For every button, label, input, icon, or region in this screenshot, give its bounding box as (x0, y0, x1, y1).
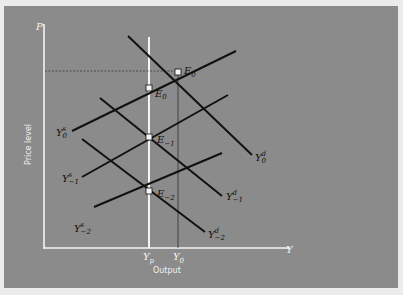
equilibrium-label-e-minus2: E−2 (157, 189, 175, 202)
supply-curve-minus1 (82, 95, 228, 177)
equilibrium-point-e-minus1 (146, 134, 152, 140)
equilibrium-point-e0-prime (146, 85, 152, 91)
diagram-canvas (0, 0, 403, 295)
supply-label-minus1: Ys−1 (62, 172, 79, 186)
equilibrium-label-e0: E0 (184, 66, 196, 79)
supply-label-minus2: Ys−2 (74, 222, 91, 236)
supply-curve-0 (72, 51, 236, 131)
demand-label-0: Yd0 (255, 151, 266, 165)
supply-label-0: Ys0 (56, 126, 67, 140)
equilibrium-point-e0 (175, 69, 181, 75)
demand-label-minus2: Yd−2 (208, 228, 225, 242)
y-axis-title: Price level (24, 115, 33, 175)
demand-curve-minus2 (82, 139, 205, 232)
x-tick-yp: Yp (143, 252, 154, 265)
x-axis-symbol: Y (286, 245, 293, 255)
equilibrium-point-e-minus2 (146, 188, 152, 194)
equilibrium-label-e-minus1: E−1 (157, 135, 175, 148)
equilibrium-label-e0-prime: E′0 (155, 87, 167, 101)
y-axis-symbol: P (36, 22, 43, 32)
x-axis-title: Output (153, 266, 181, 275)
x-tick-y0: Y0 (173, 252, 184, 265)
demand-label-minus1: Yd−1 (226, 190, 243, 204)
